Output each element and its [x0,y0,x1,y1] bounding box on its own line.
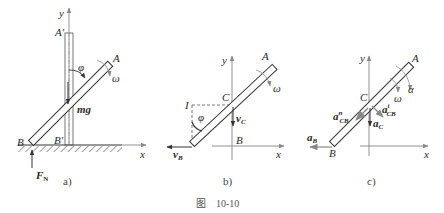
label-b-prime: B′ [54,134,64,146]
x-axis-label-b: x [275,148,281,160]
caption-c: c) [367,175,376,188]
panel-c: x y A B C α ω atCB anCB aC aB c) [307,52,429,188]
figure-caption: 图 10-10 [196,198,239,209]
label-phi-a: φ [78,61,84,73]
label-b-b: B [236,134,243,146]
angle-arc-b [192,122,202,131]
label-acb-n: anCB [333,109,349,125]
label-vb: vB [173,148,183,162]
caption-b: b) [223,175,233,188]
caption-a: a) [63,175,72,188]
x-axis-label-c: x [423,148,429,160]
label-a-prime: A′ [54,26,65,38]
figure-10-10: x y A′ B′ A B φ ω mg FN a) x y [0,0,444,213]
label-c-c: C [360,91,368,103]
label-a: A [112,52,120,64]
label-alpha: α [408,83,414,95]
label-instant-center: I [184,99,190,111]
label-b: B [17,136,24,148]
ground-hatch [18,146,122,152]
rod-ab-a [29,61,113,145]
label-ab: aB [307,131,318,145]
rod-ab-c [330,62,414,146]
label-vc: vC [236,112,246,126]
label-fn: FN [35,169,48,183]
y-axis-label-a: y [58,7,64,19]
label-omega-c: ω [394,92,402,104]
label-c-b: C [222,91,230,103]
label-mg: mg [77,103,92,115]
y-axis-label-b: y [221,54,227,66]
panel-a: x y A′ B′ A B φ ω mg FN a) [17,7,146,188]
label-omega-b: ω [273,82,281,94]
label-ac: aC [373,117,384,131]
label-a-b: A [261,50,269,62]
label-acb-t: atCB [382,102,396,118]
rod-ab-b [190,64,277,146]
label-a-c: A [411,52,419,64]
y-axis-label-c: y [359,52,365,64]
panel-b: x y I A B C φ ω vC vB b) [167,50,284,188]
label-omega-a: ω [112,72,120,84]
x-axis-label-a: x [139,148,145,160]
label-phi-b: φ [198,111,204,123]
label-b-c: B [329,147,336,159]
